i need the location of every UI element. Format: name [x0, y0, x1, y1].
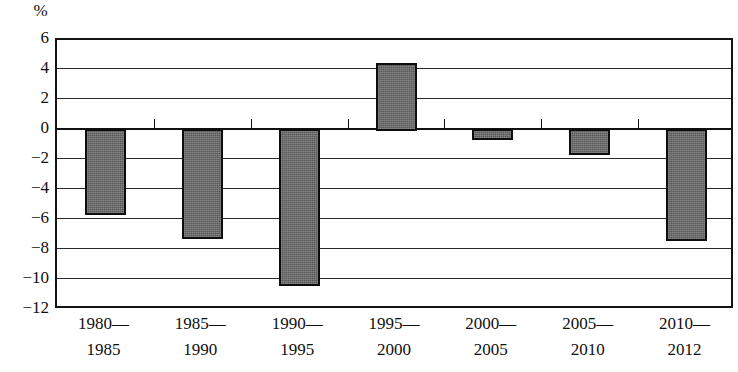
plot-area — [55, 38, 733, 308]
y-axis-tick-label: −8 — [0, 239, 49, 256]
x-axis-tick-label: 1985—1990 — [152, 311, 249, 363]
x-axis-tick-label: 2005—2010 — [539, 311, 636, 363]
x-axis-tick-label-line1: 1980— — [55, 311, 152, 337]
x-axis-tick-label-group: 1980—19851985—19901990—19951995—20002000… — [55, 311, 733, 369]
x-axis-tick-label-line2: 1995 — [249, 337, 346, 363]
x-axis-tick-mark — [251, 119, 252, 128]
gridline — [57, 188, 731, 189]
x-axis-tick-mark — [541, 119, 542, 128]
x-axis-tick-label-line2: 1990 — [152, 337, 249, 363]
x-axis-tick-label-line2: 2005 — [442, 337, 539, 363]
x-axis-tick-label: 2010—2012 — [636, 311, 733, 363]
x-axis-tick-label: 2000—2005 — [442, 311, 539, 363]
y-axis-tick-label: −10 — [0, 269, 49, 286]
x-axis-tick-label-line2: 2010 — [539, 337, 636, 363]
gridline — [57, 248, 731, 249]
y-axis-unit-label: % — [14, 2, 48, 19]
bar — [569, 129, 610, 155]
x-axis-tick-mark — [154, 119, 155, 128]
bar — [376, 63, 417, 131]
x-axis-tick-label-line1: 1990— — [249, 311, 346, 337]
bar — [666, 129, 707, 241]
bar — [279, 129, 320, 286]
x-axis-tick-mark — [348, 119, 349, 128]
y-axis-tick-label: −12 — [0, 299, 49, 316]
x-axis-tick-label-line1: 2010— — [636, 311, 733, 337]
gridline — [57, 158, 731, 159]
gridline — [57, 278, 731, 279]
y-axis-tick-label-group: 6420−2−4−6−8−10−12 — [0, 38, 49, 308]
y-axis-tick-label: 0 — [0, 119, 49, 136]
y-axis-tick-label: −6 — [0, 209, 49, 226]
x-axis-tick-mark — [444, 119, 445, 128]
x-axis-tick-label-line1: 1985— — [152, 311, 249, 337]
x-axis-tick-label-line1: 2000— — [442, 311, 539, 337]
y-axis-tick-label: 6 — [0, 29, 49, 46]
bar-chart: % 6420−2−4−6−8−10−12 1980—19851985—19901… — [0, 0, 738, 372]
gridline — [57, 218, 731, 219]
x-axis-tick-label-line1: 1995— — [346, 311, 443, 337]
bar — [472, 129, 513, 140]
x-axis-tick-label: 1990—1995 — [249, 311, 346, 363]
x-axis-tick-label-line2: 2000 — [346, 337, 443, 363]
x-axis-tick-label: 1980—1985 — [55, 311, 152, 363]
x-axis-tick-label-line2: 1985 — [55, 337, 152, 363]
bar — [182, 129, 223, 239]
x-axis-tick-label-line1: 2005— — [539, 311, 636, 337]
bar — [85, 129, 126, 215]
x-axis-tick-label: 1995—2000 — [346, 311, 443, 363]
y-axis-tick-label: −2 — [0, 149, 49, 166]
y-axis-tick-label: −4 — [0, 179, 49, 196]
x-axis-tick-mark — [638, 119, 639, 128]
y-axis-tick-label: 2 — [0, 89, 49, 106]
y-axis-tick-label: 4 — [0, 59, 49, 76]
x-axis-tick-label-line2: 2012 — [636, 337, 733, 363]
